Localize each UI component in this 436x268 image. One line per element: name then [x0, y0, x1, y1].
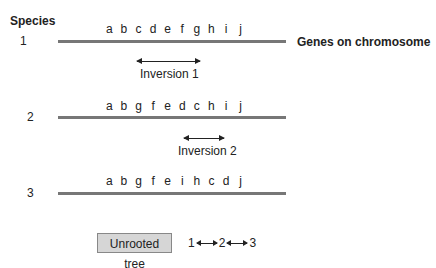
gene: c	[190, 99, 205, 113]
gene: e	[160, 99, 175, 113]
gene: f	[146, 99, 161, 113]
unrooted-tree-box: Unrooted tree	[97, 233, 172, 253]
species-number-2: 2	[27, 110, 34, 124]
inversion-2-label: Inversion 2	[178, 144, 237, 158]
gene: g	[131, 174, 146, 188]
gene: e	[160, 22, 175, 36]
gene: g	[190, 22, 205, 36]
tree-node-3: 3	[249, 236, 256, 250]
chromosome-line-2	[58, 116, 286, 119]
gene-sequence-2: abgfedchij	[102, 99, 248, 113]
species-number-3: 3	[27, 186, 34, 200]
chromosome-line-3	[58, 192, 286, 195]
gene: h	[190, 174, 205, 188]
gene: b	[117, 99, 132, 113]
gene: b	[117, 174, 132, 188]
gene: d	[175, 99, 190, 113]
gene: j	[233, 22, 248, 36]
chromosome-legend: Genes on chromosome	[297, 35, 430, 49]
gene-sequence-3: abgfeihcdj	[102, 174, 248, 188]
inversion-1-arrow-icon	[137, 61, 200, 62]
species-header: Species	[10, 14, 55, 28]
gene: e	[160, 174, 175, 188]
chromosome-line-1	[58, 40, 286, 43]
tree-node-2: 2	[219, 236, 226, 250]
gene: a	[102, 174, 117, 188]
gene: g	[131, 99, 146, 113]
gene: f	[175, 22, 190, 36]
species-number-1: 1	[20, 34, 27, 48]
gene: a	[102, 22, 117, 36]
gene: d	[146, 22, 161, 36]
gene: c	[204, 174, 219, 188]
gene: d	[219, 174, 234, 188]
gene: a	[102, 99, 117, 113]
gene: i	[175, 174, 190, 188]
double-arrow-icon	[227, 243, 247, 244]
inversion-2-arrow-icon	[184, 138, 224, 139]
gene: h	[204, 22, 219, 36]
gene: c	[131, 22, 146, 36]
gene: i	[219, 99, 234, 113]
gene: b	[117, 22, 132, 36]
gene: f	[146, 174, 161, 188]
double-arrow-icon	[197, 243, 217, 244]
gene: h	[204, 99, 219, 113]
tree-relationship: 1 2 3	[188, 236, 256, 250]
tree-node-1: 1	[188, 236, 195, 250]
gene: j	[233, 174, 248, 188]
gene: j	[233, 99, 248, 113]
gene-sequence-1: abcdefghij	[102, 22, 248, 36]
gene: i	[219, 22, 234, 36]
inversion-1-label: Inversion 1	[140, 67, 199, 81]
